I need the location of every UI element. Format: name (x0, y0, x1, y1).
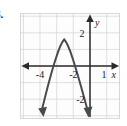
y-axis-top-arrow-icon (86, 15, 94, 23)
x-tick-label-neg4: -4 (36, 69, 44, 80)
x-tick-label-neg2: -2 (69, 69, 77, 80)
figure-root: 3. (0, 0, 127, 126)
y-tick-label-neg2: -2 (76, 94, 84, 105)
parabola-curve (38, 40, 92, 118)
coordinate-graph-panel: -4 -2 1 2 -2 x y (20, 13, 120, 119)
coordinate-graph-svg: -4 -2 1 2 -2 x y (20, 13, 120, 119)
x-tick-label-1: 1 (102, 69, 107, 80)
problem-number: 3. (0, 8, 11, 22)
y-axis-label: y (94, 17, 100, 28)
y-tick-label-2: 2 (80, 28, 85, 39)
x-axis-left-arrow-icon (22, 62, 30, 70)
x-axis-label: x (111, 69, 117, 80)
